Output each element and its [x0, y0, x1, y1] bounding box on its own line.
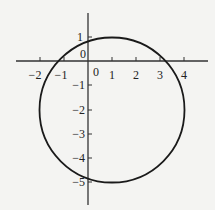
y-tick-label: −1	[72, 78, 85, 92]
y-tick-label: −2	[72, 103, 85, 117]
y-tick-label: −4	[72, 151, 85, 165]
y-tick-label: 0	[80, 47, 86, 61]
x-tick-label: 3	[157, 68, 163, 82]
chart-canvas: −2 −1 0 1 2 3 4 1 0 −1 −2 −3 −4 −5	[0, 0, 215, 210]
y-tick-label: −3	[72, 127, 85, 141]
x-tick-label: −1	[55, 68, 68, 82]
x-tick-label: 4	[181, 68, 187, 82]
y-tick-label: 1	[77, 30, 83, 44]
x-tick-label: 0	[93, 65, 99, 79]
x-tick-label: 1	[109, 68, 115, 82]
x-tick-label: −2	[29, 68, 42, 82]
x-tick-label: 2	[133, 68, 139, 82]
